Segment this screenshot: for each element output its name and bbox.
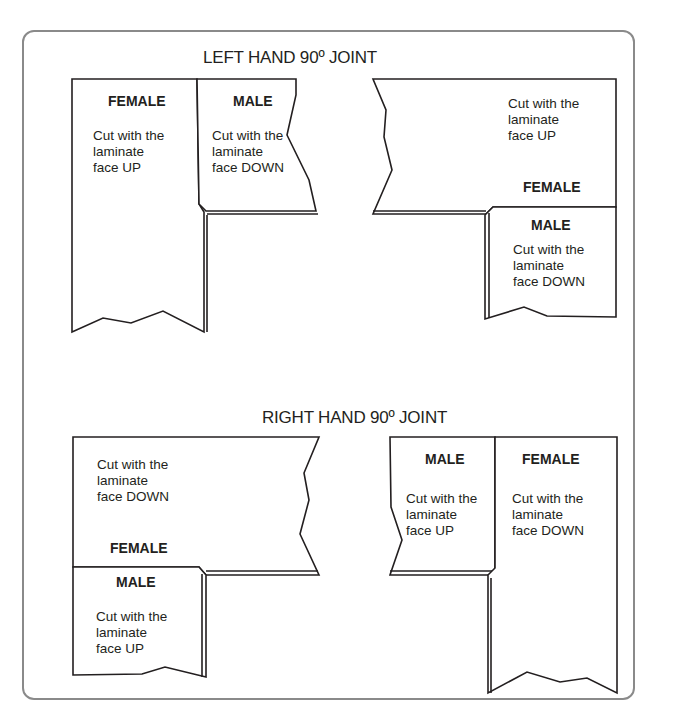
rh-right-female-note: Cut with the laminate face DOWN xyxy=(512,491,584,539)
rh-right-male-note: Cut with the laminate face UP xyxy=(406,491,477,539)
lh-male-note: Cut with the laminate face DOWN xyxy=(212,128,284,176)
lh-female-label: FEMALE xyxy=(108,93,166,109)
rh-left-female-label: FEMALE xyxy=(110,540,168,556)
lh-right-female-note: Cut with the laminate face UP xyxy=(508,96,579,144)
lh-right-male-label: MALE xyxy=(531,217,571,233)
lh-right-female-label: FEMALE xyxy=(523,179,581,195)
left-hand-joint-title: LEFT HAND 90º JOINT xyxy=(203,48,377,68)
rh-left-female-note: Cut with the laminate face DOWN xyxy=(97,457,169,505)
lh-male-label: MALE xyxy=(233,93,273,109)
lh-right-male-note: Cut with the laminate face DOWN xyxy=(513,242,585,290)
rh-right-male-label: MALE xyxy=(425,451,465,467)
lh-left-female-piece xyxy=(72,79,207,332)
right-hand-joint-title: RIGHT HAND 90º JOINT xyxy=(262,408,447,428)
rh-right-female-label: FEMALE xyxy=(522,451,580,467)
rh-right-female-piece xyxy=(488,437,617,693)
rh-left-male-note: Cut with the laminate face UP xyxy=(96,609,167,657)
lh-female-note: Cut with the laminate face UP xyxy=(93,128,164,176)
rh-left-male-label: MALE xyxy=(116,574,156,590)
